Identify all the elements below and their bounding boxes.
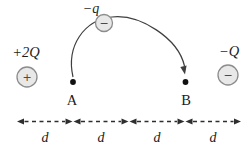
point-b: B	[181, 79, 191, 108]
distance-label: d	[154, 130, 162, 145]
trajectory-arc	[71, 17, 184, 77]
moving-charge-label: −q	[83, 1, 99, 16]
right-charge: −Q −	[218, 43, 240, 85]
distance-label: d	[42, 130, 50, 145]
arrow-left-icon	[74, 119, 81, 125]
point-a-label: A	[67, 92, 78, 108]
physics-charge-diagram: − −q +2Q + −Q − A B	[0, 0, 251, 151]
point-a: A	[67, 79, 78, 108]
point-b-dot	[183, 79, 189, 85]
left-charge-label: +2Q	[12, 44, 40, 60]
point-b-label: B	[181, 92, 191, 108]
plus-icon: +	[22, 71, 31, 84]
arrow-right-icon	[234, 119, 241, 125]
arrow-left-icon	[186, 119, 193, 125]
distance-label: d	[210, 130, 218, 145]
arrow-left-icon	[17, 119, 24, 125]
minus-icon: −	[223, 69, 232, 82]
left-charge: +2Q +	[12, 44, 40, 87]
arrow-left-icon	[130, 119, 137, 125]
arrow-right-icon	[66, 119, 73, 125]
arrow-right-icon	[122, 119, 129, 125]
minus-icon: −	[99, 17, 108, 30]
right-charge-label: −Q	[219, 43, 240, 59]
diagram-canvas: − −q +2Q + −Q − A B	[0, 0, 251, 151]
point-a-dot	[70, 79, 76, 85]
dimension-line: d d d d	[17, 119, 241, 146]
distance-label: d	[98, 130, 106, 145]
arrow-right-icon	[178, 119, 185, 125]
trajectory-arrowhead-icon	[180, 66, 186, 75]
